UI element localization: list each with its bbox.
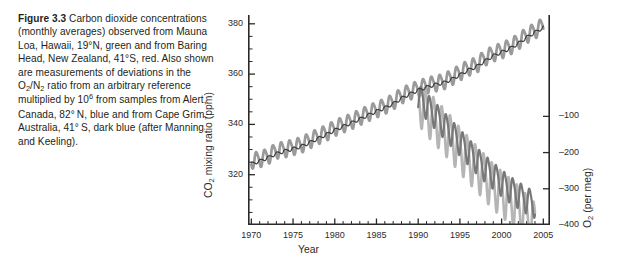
- caption-sub-o2: 2: [26, 84, 30, 93]
- y-axis-right-title: O2 (per meg): [582, 48, 598, 228]
- y-right-tick-label: –300: [559, 183, 599, 193]
- caption-body: Carbon dioxide concentrations (monthly a…: [18, 13, 214, 147]
- y-left-title-prefix: CO: [203, 182, 214, 198]
- chart-canvas: [248, 15, 550, 225]
- caption-sub-n2: 2: [40, 84, 44, 93]
- y-left-title-sub: 2: [207, 178, 216, 182]
- x-tick-label: 1980: [317, 230, 353, 240]
- y-left-tick-label: 320: [201, 169, 243, 179]
- x-tick-label: 1970: [233, 230, 269, 240]
- caption-sup-6: 6: [89, 92, 93, 101]
- plot-area: [248, 15, 550, 225]
- y-left-tick-label: 340: [201, 118, 243, 128]
- figure-caption: Figure 3.3 Carbon dioxide concentrations…: [18, 12, 214, 148]
- x-tick-label: 1985: [358, 230, 394, 240]
- y-right-tick-label: –400: [559, 219, 599, 229]
- data-series-group: [251, 20, 543, 225]
- x-tick-label: 2000: [484, 230, 520, 240]
- series-line-0: [251, 20, 543, 169]
- y-right-tick-label: –200: [559, 147, 599, 157]
- x-tick-label: 1975: [275, 230, 311, 240]
- y-left-tick-label: 380: [201, 18, 243, 28]
- y-right-tick-label: –100: [559, 110, 599, 120]
- y-left-title-suffix: mixing ratio (ppm): [203, 92, 214, 178]
- x-tick-label: 1990: [400, 230, 436, 240]
- x-tick-label: 1995: [442, 230, 478, 240]
- figure-3-3: Figure 3.3 Carbon dioxide concentrations…: [0, 0, 617, 264]
- y-left-tick-label: 360: [201, 68, 243, 78]
- x-axis-title: Year: [0, 244, 617, 255]
- figure-label: Figure 3.3: [18, 13, 66, 24]
- x-tick-label: 2005: [525, 230, 561, 240]
